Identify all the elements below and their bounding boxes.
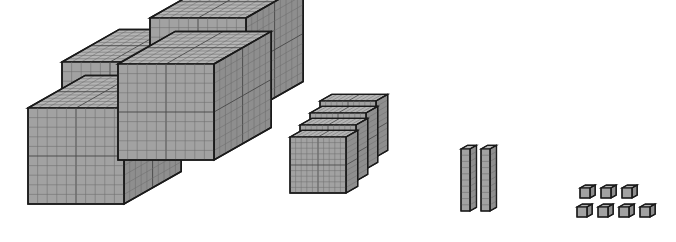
unit-cube — [640, 204, 655, 217]
ten-rod — [461, 145, 477, 211]
hundred-flat — [290, 130, 358, 193]
unit-cube — [601, 185, 616, 198]
unit-cube — [619, 204, 634, 217]
base-ten-blocks-scene — [0, 0, 676, 242]
blocks-canvas — [0, 0, 676, 242]
ten-rod — [481, 145, 497, 211]
unit-cube — [577, 204, 592, 217]
thousand-cube — [118, 31, 271, 160]
unit-cube — [622, 185, 637, 198]
unit-cube — [580, 185, 595, 198]
unit-cube — [598, 204, 613, 217]
